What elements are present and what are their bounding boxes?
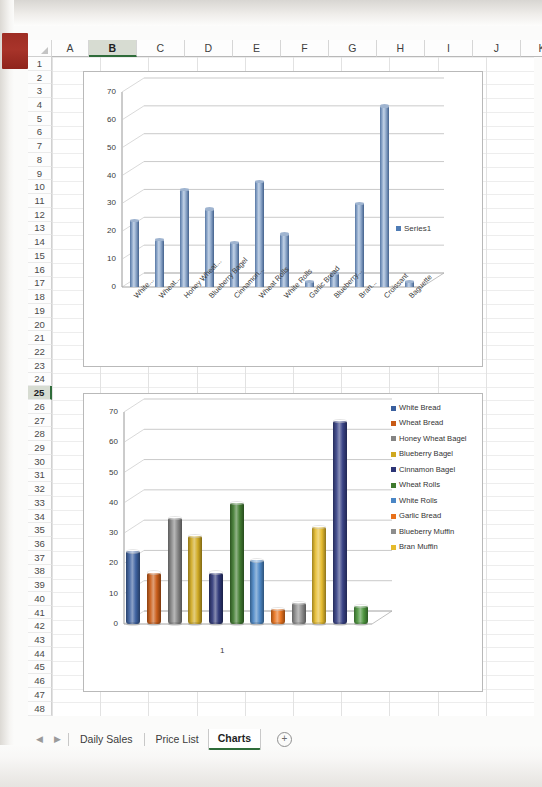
- row-header-36[interactable]: 36: [28, 537, 52, 551]
- chart-2-cylinder[interactable]: [271, 609, 285, 624]
- chart-2-cylinder[interactable]: [168, 518, 182, 624]
- chart-2-ytick: 50: [98, 468, 118, 477]
- row-header-40[interactable]: 40: [28, 592, 52, 606]
- chart-2-legend-item[interactable]: Wheat Rolls: [391, 481, 483, 490]
- row-header-13[interactable]: 13: [28, 222, 52, 236]
- column-header-c[interactable]: C: [137, 40, 185, 57]
- row-header-11[interactable]: 11: [28, 194, 52, 208]
- row-header-21[interactable]: 21: [28, 331, 52, 345]
- row-header-35[interactable]: 35: [28, 523, 52, 537]
- row-header-29[interactable]: 29: [28, 441, 52, 455]
- row-header-9[interactable]: 9: [28, 167, 52, 181]
- chart-2-legend-item[interactable]: Wheat Bread: [391, 419, 483, 428]
- chart-2-cylinder[interactable]: [188, 536, 202, 624]
- row-header-10[interactable]: 10: [28, 180, 52, 194]
- sheet-tab-price-list[interactable]: Price List: [147, 730, 208, 749]
- chart-2-cylinder[interactable]: [250, 560, 264, 624]
- row-header-1[interactable]: 1: [28, 57, 52, 71]
- row-header-41[interactable]: 41: [28, 606, 52, 620]
- column-header-a[interactable]: A: [52, 40, 89, 57]
- select-all-corner[interactable]: [28, 40, 52, 57]
- row-header-44[interactable]: 44: [28, 647, 52, 661]
- ribbon-file-tab-stub[interactable]: [2, 33, 28, 69]
- chart-2-ytick: 30: [98, 528, 118, 537]
- row-header-15[interactable]: 15: [28, 249, 52, 263]
- chart-2-legend-item[interactable]: White Rolls: [391, 497, 483, 506]
- column-header-f[interactable]: F: [281, 40, 329, 57]
- chart-2-ytick: 70: [98, 407, 118, 416]
- row-header-18[interactable]: 18: [28, 290, 52, 304]
- chart-1-legend[interactable]: Series1: [396, 224, 431, 233]
- column-header-i[interactable]: I: [425, 40, 473, 57]
- legend-swatch-icon: [391, 514, 396, 519]
- row-header-5[interactable]: 5: [28, 112, 52, 126]
- row-header-23[interactable]: 23: [28, 359, 52, 373]
- chart-2-cylinder[interactable]: [312, 527, 326, 624]
- chart-2-cylinder[interactable]: [292, 603, 306, 624]
- column-header-row: ABCDEFGHIJK: [28, 40, 534, 57]
- column-header-k[interactable]: K: [521, 40, 542, 57]
- row-header-38[interactable]: 38: [28, 565, 52, 579]
- row-header-12[interactable]: 12: [28, 208, 52, 222]
- row-header-24[interactable]: 24: [28, 373, 52, 387]
- chart-2-legend[interactable]: White BreadWheat BreadHoney Wheat BagelB…: [391, 404, 483, 559]
- row-header-30[interactable]: 30: [28, 455, 52, 469]
- chevron-left-icon[interactable]: ◀: [30, 730, 48, 748]
- row-header-16[interactable]: 16: [28, 263, 52, 277]
- row-header-32[interactable]: 32: [28, 482, 52, 496]
- row-header-47[interactable]: 47: [28, 688, 52, 702]
- chart-2-cylinder[interactable]: [333, 421, 347, 624]
- row-header-45[interactable]: 45: [28, 661, 52, 675]
- chart-2-3d-cylinder[interactable]: 0102030405060701 White BreadWheat BreadH…: [83, 393, 483, 692]
- column-header-h[interactable]: H: [377, 40, 425, 57]
- row-header-28[interactable]: 28: [28, 427, 52, 441]
- row-header-43[interactable]: 43: [28, 633, 52, 647]
- row-header-22[interactable]: 22: [28, 345, 52, 359]
- column-header-b[interactable]: B: [89, 40, 137, 57]
- row-header-6[interactable]: 6: [28, 126, 52, 140]
- chart-2-ytick: 40: [98, 498, 118, 507]
- row-header-39[interactable]: 39: [28, 578, 52, 592]
- row-header-19[interactable]: 19: [28, 304, 52, 318]
- plus-circle-icon[interactable]: +: [277, 732, 292, 747]
- row-header-17[interactable]: 17: [28, 277, 52, 291]
- row-header-46[interactable]: 46: [28, 674, 52, 688]
- row-header-33[interactable]: 33: [28, 496, 52, 510]
- row-header-2[interactable]: 2: [28, 71, 52, 85]
- chart-2-cylinder[interactable]: [209, 573, 223, 624]
- row-header-4[interactable]: 4: [28, 98, 52, 112]
- chart-1-3d-column[interactable]: 010203040506070 White...Wheat...Honey Wh…: [83, 71, 483, 367]
- row-header-20[interactable]: 20: [28, 318, 52, 332]
- row-header-14[interactable]: 14: [28, 235, 52, 249]
- chart-2-legend-item[interactable]: Blueberry Muffin: [391, 528, 483, 537]
- chart-2-legend-item[interactable]: Bran Muffin: [391, 543, 483, 552]
- chart-2-ytick: 10: [98, 589, 118, 598]
- chart-2-cylinder[interactable]: [230, 503, 244, 624]
- column-header-e[interactable]: E: [233, 40, 281, 57]
- row-header-42[interactable]: 42: [28, 619, 52, 633]
- row-header-48[interactable]: 48: [28, 702, 52, 716]
- row-header-7[interactable]: 7: [28, 139, 52, 153]
- chart-2-cylinder[interactable]: [147, 573, 161, 624]
- column-header-j[interactable]: J: [473, 40, 521, 57]
- chart-2-legend-item[interactable]: Honey Wheat Bagel: [391, 435, 483, 444]
- column-header-g[interactable]: G: [329, 40, 377, 57]
- row-header-34[interactable]: 34: [28, 510, 52, 524]
- row-header-8[interactable]: 8: [28, 153, 52, 167]
- row-header-37[interactable]: 37: [28, 551, 52, 565]
- row-header-31[interactable]: 31: [28, 469, 52, 483]
- chart-2-cylinder[interactable]: [354, 606, 368, 624]
- row-header-26[interactable]: 26: [28, 400, 52, 414]
- chart-2-legend-item[interactable]: White Bread: [391, 404, 483, 413]
- row-header-3[interactable]: 3: [28, 84, 52, 98]
- column-header-d[interactable]: D: [185, 40, 233, 57]
- row-header-27[interactable]: 27: [28, 414, 52, 428]
- sheet-tab-charts[interactable]: Charts: [208, 729, 261, 750]
- chevron-right-icon[interactable]: ▶: [48, 730, 66, 748]
- row-header-25[interactable]: 25: [28, 386, 52, 400]
- chart-2-legend-item[interactable]: Cinnamon Bagel: [391, 466, 483, 475]
- chart-2-legend-item[interactable]: Blueberry Bagel: [391, 450, 483, 459]
- chart-2-cylinder[interactable]: [126, 551, 140, 624]
- sheet-tab-daily-sales[interactable]: Daily Sales: [71, 730, 142, 749]
- chart-2-legend-item[interactable]: Garlic Bread: [391, 512, 483, 521]
